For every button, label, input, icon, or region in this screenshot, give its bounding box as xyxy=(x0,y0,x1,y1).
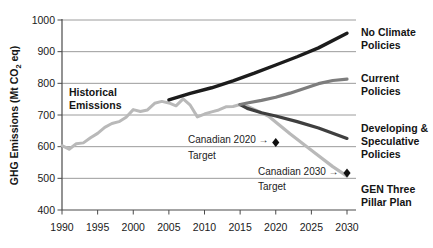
y-tick-label: 400 xyxy=(37,204,55,216)
no-climate-policies-label: No Climate Policies xyxy=(361,26,431,52)
x-tick-label: 2030 xyxy=(335,221,359,233)
canadian-2030-target-annotation-line2: Target xyxy=(258,181,286,193)
series-line-no-climate-policies xyxy=(169,33,347,100)
y-tick-label: 600 xyxy=(37,140,55,152)
y-axis-title: GHG Emissions (Mt CO2 eq) xyxy=(8,46,21,186)
y-tick-label: 1000 xyxy=(32,14,56,26)
gen-three-pillar-plan-label: GEN Three Pillar Plan xyxy=(361,183,427,209)
x-tick-label: 2020 xyxy=(264,221,288,233)
y-tick-label: 700 xyxy=(37,109,55,121)
y-tick-label: 500 xyxy=(37,172,55,184)
x-tick-label: 2015 xyxy=(228,221,252,233)
canadian-2020-target-marker xyxy=(272,138,279,147)
y-axis-title-suffix: eq) xyxy=(8,46,20,65)
current-policies-label: Current Policies xyxy=(361,72,421,98)
x-tick-label: 1990 xyxy=(50,221,74,233)
canadian-2030-target-annotation: Canadian 2030 → xyxy=(258,166,339,178)
y-axis-title-text: GHG Emissions (Mt CO xyxy=(8,69,20,186)
x-tick-label: 2010 xyxy=(193,221,217,233)
y-tick-label: 900 xyxy=(37,45,55,57)
ghg-emissions-scenarios-chart: 4005006007008009001000199019952000200520… xyxy=(0,0,433,248)
historical-emissions-label: Historical Emissions xyxy=(69,86,131,112)
y-axis-title-subscript: 2 xyxy=(14,64,23,68)
y-tick-label: 800 xyxy=(37,77,55,89)
x-tick-label: 2005 xyxy=(157,221,181,233)
x-tick-label: 2025 xyxy=(300,221,324,233)
x-tick-label: 1995 xyxy=(86,221,110,233)
developing-speculative-policies-label: Developing & Speculative Policies xyxy=(361,122,433,161)
canadian-2020-target-annotation-line2: Target xyxy=(188,150,216,162)
x-tick-label: 2000 xyxy=(122,221,146,233)
canadian-2020-target-annotation: Canadian 2020 → xyxy=(188,134,269,146)
